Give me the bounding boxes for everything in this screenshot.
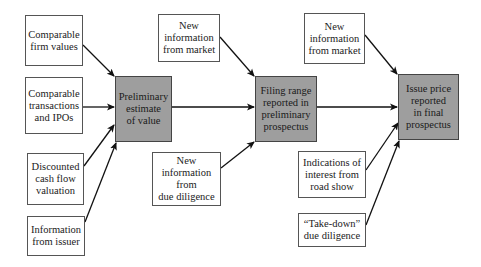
arrow-issuer-to-preliminary — [85, 143, 116, 222]
arrow-comp-firm-to-preliminary — [83, 45, 114, 76]
stage-filing-range: Filing range reported in preliminary pro… — [255, 76, 317, 142]
arrow-roadshow-to-issue — [366, 123, 398, 170]
stage-preliminary-estimate: Preliminary estimate of value — [115, 76, 172, 142]
input-comparable-firm-values: Comparable firm values — [25, 15, 83, 66]
input-information-from-issuer: Information from issuer — [27, 216, 85, 256]
input-comparable-transactions: Comparable transactions and IPOs — [25, 77, 83, 134]
arrow-takedown-to-issue — [366, 141, 399, 225]
input-new-info-due-diligence: New information from due diligence — [152, 152, 221, 206]
arrow-duedil-to-filing — [221, 142, 254, 168]
input-new-info-market-2: New information from market — [304, 13, 365, 64]
stage-issue-price: Issue price reported in final prospectus — [398, 74, 459, 140]
ipo-pricing-flowchart: Comparable firm values Comparable transa… — [0, 0, 481, 267]
input-road-show-interest: Indications of interest from road show — [298, 151, 366, 198]
input-new-info-market-1: New information from market — [158, 14, 220, 62]
input-take-down-due-diligence: “Take-down” due diligence — [298, 213, 366, 247]
arrow-market1-to-filing — [220, 37, 254, 76]
input-discounted-cash-flow: Discounted cash flow valuation — [27, 153, 84, 205]
arrow-market2-to-issue — [365, 35, 397, 74]
